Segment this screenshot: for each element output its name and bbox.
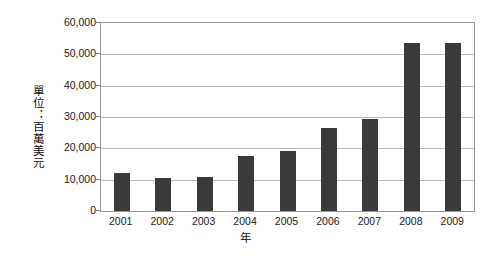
bar (238, 156, 254, 211)
x-tick-label: 2009 (431, 215, 473, 227)
bar (404, 43, 420, 211)
bar (155, 178, 171, 211)
x-axis-tick-labels: 200120022003200420052006200720082009 (100, 215, 473, 229)
bar (362, 119, 378, 211)
x-tick-label: 2006 (307, 215, 349, 227)
x-tick-label: 2008 (390, 215, 432, 227)
x-tick-label: 2001 (100, 215, 142, 227)
plot-area (100, 22, 475, 212)
x-tick-label: 2004 (224, 215, 266, 227)
x-tick-label: 2002 (141, 215, 183, 227)
bar (445, 43, 461, 211)
x-tick-label: 2005 (266, 215, 308, 227)
bar (197, 177, 213, 211)
bar-chart-figure: 單位：百萬美元 60,00050,00040,00030,00020,00010… (0, 0, 490, 260)
bars-layer (101, 23, 474, 211)
x-tick-label: 2007 (348, 215, 390, 227)
bar (280, 151, 296, 211)
bar (321, 128, 337, 211)
x-axis-title: 年 (0, 232, 490, 245)
bar (114, 173, 130, 211)
x-tick-label: 2003 (183, 215, 225, 227)
